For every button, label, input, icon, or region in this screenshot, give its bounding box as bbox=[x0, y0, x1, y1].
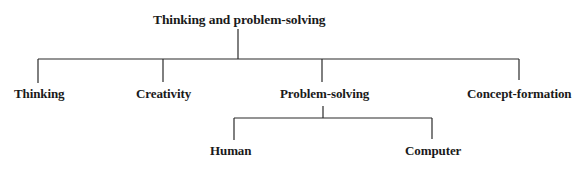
node-creativity-label: Creativity bbox=[136, 87, 191, 100]
node-human-label: Human bbox=[210, 144, 251, 157]
node-concept-formation-label: Concept-formation bbox=[467, 87, 571, 100]
node-computer-label: Computer bbox=[405, 144, 461, 157]
node-thinking-label: Thinking bbox=[14, 87, 65, 100]
node-problem-solving-label: Problem-solving bbox=[280, 87, 369, 100]
root-node-label: Thinking and problem-solving bbox=[153, 13, 326, 27]
hierarchy-diagram: Thinking and problem-solving Thinking Cr… bbox=[0, 0, 586, 169]
